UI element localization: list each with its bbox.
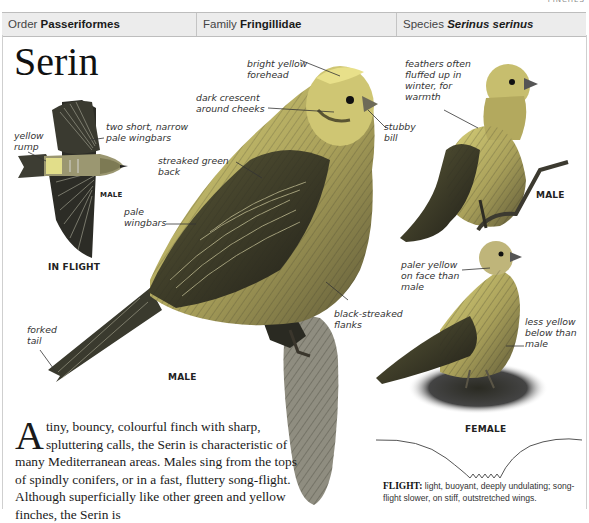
- label-line: male: [525, 338, 577, 349]
- label-line: wingbars: [124, 217, 166, 228]
- label-line: pale wingbars: [106, 132, 188, 143]
- main-male-caption: MALE: [168, 372, 197, 382]
- label-forked-tail: forked tail: [27, 324, 57, 346]
- label-line: winter, for: [405, 80, 471, 91]
- label-line: flanks: [334, 319, 403, 330]
- label-line: on face than: [401, 270, 459, 281]
- label-line: back: [158, 166, 229, 177]
- flight-path-diagram: [376, 439, 582, 478]
- label-black-streaked-flanks: black-streaked flanks: [334, 308, 403, 330]
- label-line: dark crescent: [196, 92, 265, 103]
- in-flight-sex-caption: MALE: [100, 191, 122, 199]
- label-line: pale: [124, 206, 166, 217]
- description-text: tiny, bouncy, colourful finch with sharp…: [15, 419, 297, 522]
- label-pale-wingbars: pale wingbars: [124, 206, 166, 228]
- label-line: rump: [14, 141, 44, 152]
- label-line: two short, narrow: [106, 121, 188, 132]
- label-less-yellow-below: less yellow below than male: [525, 316, 577, 349]
- label-stubby-bill: stubby bill: [384, 121, 416, 143]
- label-yellow-rump: yellow rump: [14, 130, 44, 152]
- label-line: forked: [27, 324, 57, 335]
- label-line: yellow: [14, 130, 44, 141]
- species-description: A tiny, bouncy, colourful finch with sha…: [15, 418, 300, 523]
- label-streaked-green-back: streaked green back: [158, 155, 229, 177]
- label-line: less yellow: [525, 316, 577, 327]
- label-line: stubby: [384, 121, 416, 132]
- in-flight-caption: IN FLIGHT: [48, 262, 100, 272]
- label-feathers-fluffed: feathers often fluffed up in winter, for…: [405, 58, 471, 102]
- label-line: below than: [525, 327, 577, 338]
- label-dark-crescent-cheeks: dark crescent around cheeks: [196, 92, 265, 114]
- label-line: feathers often: [405, 58, 471, 69]
- label-line: fluffed up in: [405, 69, 471, 80]
- label-line: paler yellow: [401, 259, 459, 270]
- drop-cap: A: [15, 421, 44, 451]
- label-line: warmth: [405, 91, 471, 102]
- label-bright-yellow-forehead: bright yellow forehead: [247, 58, 307, 80]
- label-line: male: [401, 281, 459, 292]
- label-paler-yellow-face: paler yellow on face than male: [401, 259, 459, 292]
- label-two-short-wingbars: two short, narrow pale wingbars: [106, 121, 188, 143]
- label-line: streaked green: [158, 155, 229, 166]
- winter-male-caption: MALE: [536, 190, 565, 200]
- flight-description: FLIGHT: light, buoyant, deeply undulatin…: [383, 480, 583, 504]
- label-line: bright yellow: [247, 58, 307, 69]
- label-line: around cheeks: [196, 103, 265, 114]
- label-line: bill: [384, 132, 416, 143]
- label-line: forehead: [247, 69, 307, 80]
- female-caption: FEMALE: [465, 424, 506, 434]
- flight-heading: FLIGHT:: [383, 481, 422, 491]
- label-line: tail: [27, 335, 57, 346]
- label-line: black-streaked: [334, 308, 403, 319]
